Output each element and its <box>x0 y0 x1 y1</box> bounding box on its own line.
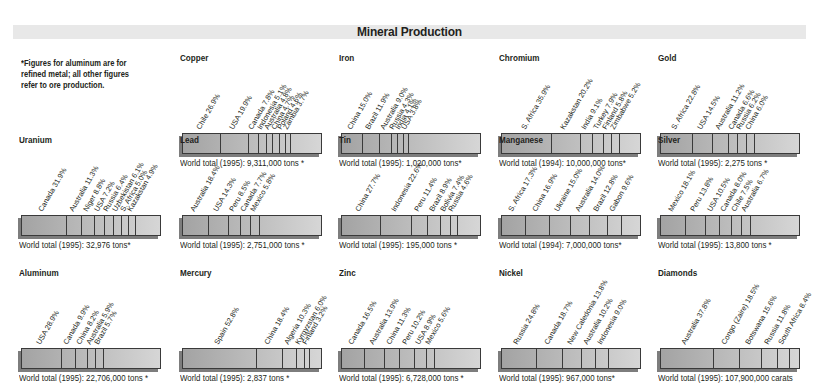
bar-remainder <box>310 349 321 368</box>
bar-segment <box>428 216 440 235</box>
bar-remainder <box>790 349 799 368</box>
bar-segment <box>762 349 779 368</box>
bar-segment <box>385 349 401 368</box>
segment-label: Spain 52.8% <box>212 305 241 346</box>
world-total: World total (1995): 195,000 tons * <box>339 240 457 250</box>
bar-segment <box>596 349 609 368</box>
bar-segment <box>229 216 241 235</box>
bar-segment <box>661 216 686 235</box>
bar-segment <box>96 349 104 368</box>
world-total: World total (1995): 22,706,000 tons * <box>19 373 148 383</box>
bar-segment <box>129 216 136 235</box>
bar-remainder <box>435 349 480 368</box>
bar-labels: Mexico 18.1%Peru 13.8%USA 10.5%Canada 8.… <box>660 135 800 215</box>
bar-segment <box>251 216 259 235</box>
bar-segment <box>400 349 414 368</box>
bar-segment <box>571 216 591 235</box>
bar <box>341 215 481 236</box>
stacked-bar <box>501 348 641 369</box>
chart-zinc: ZincCanada 16.5%Australia 13.9%China 11.… <box>339 268 489 388</box>
bar-segment <box>114 216 123 235</box>
world-total: World total (1994): 7,000,000 tons* <box>499 240 621 250</box>
bar-segment <box>297 349 305 368</box>
bar-segment <box>778 349 790 368</box>
stacked-bar <box>501 215 641 236</box>
bar-segment <box>537 349 563 368</box>
bar-segment <box>441 216 451 235</box>
bar-labels: China 15.0%Brazil 11.9%Australia 9.0%Rus… <box>341 53 481 133</box>
bar <box>660 215 800 236</box>
chart-diamonds: DiamondsAustralia 37.8%Congo (Zaire) 18.… <box>658 268 808 388</box>
chart-tin: TinChina 27.7%Indonesia 22.6%Peru 11.4%B… <box>339 135 489 255</box>
bar-labels: Chile 26.9%USA 19.9%Canada 7.8%Indonesia… <box>182 53 322 133</box>
bar-remainder <box>609 349 640 368</box>
bar-labels: S. Africa 35.9%Kazakstan 20.2%India 9.1%… <box>501 53 641 133</box>
world-total: World total (1995): 6,728,000 tons * <box>339 373 464 383</box>
title-banner: Mineral Production <box>13 25 806 39</box>
stacked-bar <box>660 215 800 236</box>
bar-segment <box>342 349 365 368</box>
bar <box>21 348 161 369</box>
stacked-bar <box>21 215 161 236</box>
bar-segment <box>502 349 537 368</box>
stacked-bar <box>182 215 322 236</box>
world-total: World total (1995): 32,976 tons* <box>19 240 130 250</box>
bar <box>501 348 641 369</box>
bar <box>182 215 322 236</box>
stacked-bar <box>341 215 481 236</box>
world-total: World total (1995): 107,900,000 carats <box>658 373 793 383</box>
bar-segment <box>412 216 428 235</box>
bar <box>21 215 161 236</box>
bar-segment <box>563 349 582 368</box>
bar <box>182 348 322 369</box>
world-total: World total (1995): 13,800 tons * <box>658 240 772 250</box>
bar-labels: Russia 24.8%Canada 18.7%New Caledonia 13… <box>501 268 641 348</box>
bar-segment <box>365 349 384 368</box>
bar-segment <box>88 349 96 368</box>
bar-remainder <box>458 216 480 235</box>
segment-label: USA 28.9% <box>34 309 61 346</box>
segment-label: S. Africa 35.9% <box>519 83 552 131</box>
bar-segment <box>661 349 714 368</box>
bar-segment <box>283 349 297 368</box>
bar-segment <box>582 349 596 368</box>
bar <box>501 215 641 236</box>
segment-label: Australia 37.8% <box>680 297 714 346</box>
bar-segment <box>22 216 67 235</box>
segment-label: Chile 26.9% <box>194 92 222 131</box>
bar-remainder <box>104 349 160 368</box>
world-total: World total (1995): 2,837 tons * <box>180 373 289 383</box>
bar-labels: USA 28.9%Canada 9.9%China 8.2%Australia … <box>21 268 161 348</box>
bar-segment <box>720 216 731 235</box>
bar-labels: Australia 37.8%Congo (Zaire) 18.5%Botswa… <box>660 268 800 348</box>
bar-segment <box>209 216 229 235</box>
segment-label: Canada 31.9% <box>37 166 69 213</box>
bar-labels: Spain 52.8%China 18.4%Algeria 10.3%Kyrgy… <box>182 268 322 348</box>
chart-uranium: UraniumCanada 31.9%Australia 11.3%Niger … <box>19 135 169 255</box>
bar-segment <box>257 349 283 368</box>
stacked-bar <box>182 348 322 369</box>
bar-segment <box>590 216 608 235</box>
bar-segment <box>550 216 571 235</box>
chart-aluminum: AluminumUSA 28.9%Canada 9.9%China 8.2%Au… <box>19 268 169 388</box>
stacked-bar <box>660 348 800 369</box>
segment-label: Russia 24.8% <box>512 302 543 346</box>
world-total: World total (1995): 2,751,000 tons * <box>180 240 305 250</box>
bar-segment <box>732 216 743 235</box>
bar-segment <box>706 216 721 235</box>
chart-manganese: ManganeseS. Africa 17.3%China 16.9%Ukrai… <box>499 135 649 255</box>
stacked-bar <box>341 348 481 369</box>
bar-segment <box>714 349 740 368</box>
world-total: World total (1995): 967,000 tons* <box>499 373 615 383</box>
page-title: Mineral Production <box>45 25 775 39</box>
bar-segment <box>742 216 751 235</box>
bar-segment <box>183 349 257 368</box>
chart-silver: SilverMexico 18.1%Peru 13.8%USA 10.5%Can… <box>658 135 808 255</box>
bar-labels: S. Africa 17.3%China 16.9%Ukraine 15.0%A… <box>501 135 641 215</box>
bar <box>341 348 481 369</box>
bar-labels: Canada 16.5%Australia 13.9%China 11.3%Pe… <box>341 268 481 348</box>
footnote: *Figures for aluminum are for refined me… <box>21 58 138 91</box>
bar-labels: S. Africa 22.8%USA 14.5%Australia 11.2%C… <box>660 53 800 133</box>
bar-segment <box>76 349 87 368</box>
bar-segment <box>381 216 413 235</box>
